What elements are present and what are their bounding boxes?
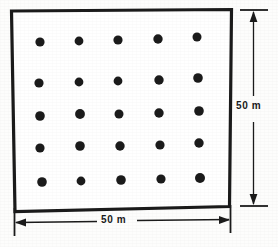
vertical-dimension-down-arrowhead bbox=[250, 194, 258, 205]
sample-point bbox=[75, 78, 84, 87]
sample-point bbox=[154, 75, 163, 84]
horizontal-dimension-right-arrowhead bbox=[219, 216, 230, 224]
horizontal-dimension-left-arrowhead bbox=[15, 219, 26, 227]
sample-point bbox=[195, 173, 205, 183]
sample-point bbox=[153, 34, 162, 43]
sample-point bbox=[154, 108, 163, 117]
sample-point bbox=[155, 140, 164, 149]
sample-point bbox=[113, 35, 122, 44]
sample-point bbox=[35, 143, 44, 152]
vertical-dimension-label: 50 m bbox=[236, 101, 261, 111]
horizontal-dimension-left-shaft bbox=[16, 222, 97, 223]
sample-point bbox=[156, 174, 165, 183]
sample-point bbox=[77, 177, 86, 186]
sample-point bbox=[37, 177, 47, 187]
horizontal-dimension-label: 50 m bbox=[101, 215, 126, 225]
sample-point bbox=[75, 141, 85, 151]
sample-point bbox=[35, 111, 45, 121]
sample-point bbox=[194, 138, 203, 147]
sample-point bbox=[193, 33, 202, 42]
sample-point bbox=[75, 37, 84, 46]
horizontal-dimension-right-shaft bbox=[137, 220, 229, 221]
sample-point bbox=[115, 110, 124, 119]
sample-point bbox=[75, 109, 85, 119]
sample-point bbox=[194, 106, 204, 116]
figure-canvas bbox=[0, 0, 278, 247]
sample-point bbox=[115, 141, 124, 150]
sample-point bbox=[116, 175, 126, 185]
sample-point bbox=[193, 73, 203, 83]
sample-point bbox=[34, 78, 43, 87]
sampling-plot-figure: 50 m 50 m bbox=[0, 0, 278, 247]
vertical-dimension-up-arrowhead bbox=[250, 11, 258, 22]
sample-point bbox=[114, 77, 123, 86]
sample-point bbox=[35, 37, 44, 46]
